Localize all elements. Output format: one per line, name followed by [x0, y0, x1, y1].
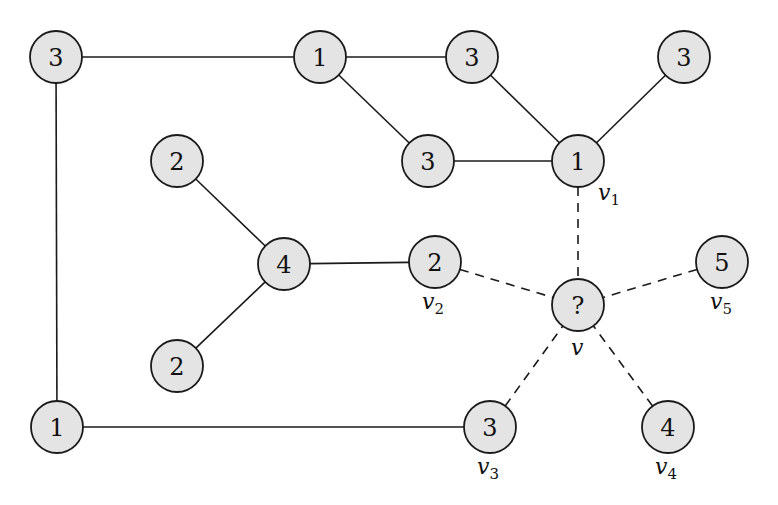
- node-N: 3: [464, 401, 516, 453]
- node-E: 3: [402, 135, 454, 187]
- node-value: 1: [312, 44, 327, 72]
- node-value: ?: [572, 292, 585, 320]
- node-value: 2: [169, 148, 184, 176]
- node-I: 2: [409, 236, 461, 288]
- vertex-label-N: v3: [477, 454, 499, 483]
- edge-D-F: [597, 75, 666, 143]
- node-O: 4: [642, 401, 694, 453]
- edge-N-J: [505, 326, 563, 406]
- node-value: 1: [570, 148, 585, 176]
- node-J: ?: [552, 279, 604, 331]
- node-D: 3: [658, 31, 710, 83]
- vertex-label-F: v1: [598, 180, 620, 209]
- node-M: 1: [31, 401, 83, 453]
- node-F: 1: [552, 135, 604, 187]
- node-value: 2: [169, 353, 184, 381]
- node-L: 2: [151, 340, 203, 392]
- node-value: 1: [49, 414, 64, 442]
- vertex-label-K: v5: [710, 289, 732, 318]
- edge-L-H: [196, 282, 265, 348]
- node-value: 3: [482, 414, 497, 442]
- graph-diagram: 313331242?52134 v1v2vv5v3v4: [0, 0, 778, 505]
- node-value: 3: [48, 44, 63, 72]
- edge-I-J: [460, 269, 553, 297]
- node-H: 4: [258, 238, 310, 290]
- node-K: 5: [696, 236, 748, 288]
- edge-K-J: [603, 269, 697, 297]
- node-value: 3: [676, 44, 691, 72]
- edge-A-M: [56, 83, 57, 401]
- vertex-label-O: v4: [655, 454, 677, 483]
- edge-C-F: [491, 75, 560, 143]
- vertex-label-I: v2: [422, 289, 444, 318]
- node-A: 3: [30, 31, 82, 83]
- node-G: 2: [151, 135, 203, 187]
- node-value: 4: [660, 414, 675, 442]
- edge-H-I: [310, 262, 409, 263]
- edge-G-H: [196, 179, 266, 246]
- node-value: 4: [276, 251, 291, 279]
- vertex-label-J: v: [571, 335, 584, 360]
- node-B: 1: [294, 31, 346, 83]
- edge-B-E: [339, 75, 410, 143]
- node-C: 3: [446, 31, 498, 83]
- node-value: 2: [427, 249, 442, 277]
- node-value: 5: [714, 249, 729, 277]
- node-value: 3: [464, 44, 479, 72]
- edge-O-J: [593, 326, 652, 406]
- node-value: 3: [420, 148, 435, 176]
